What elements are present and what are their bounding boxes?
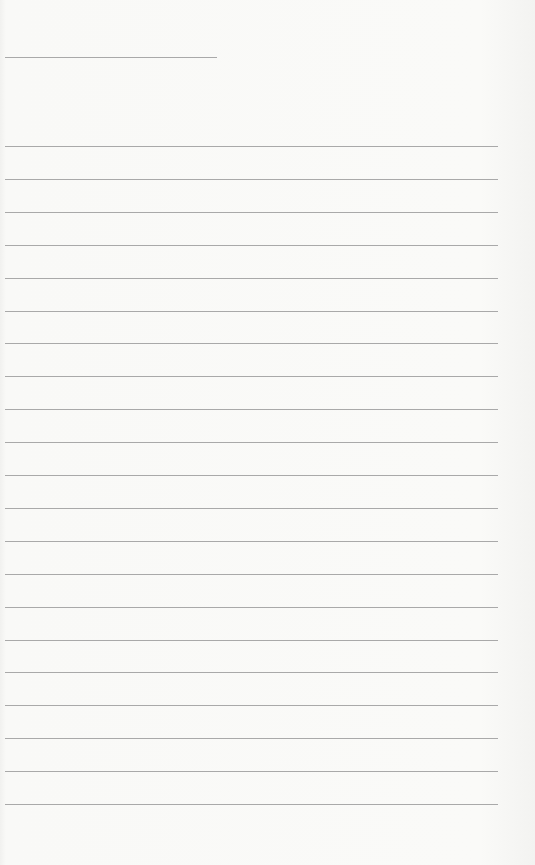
writing-line xyxy=(5,245,498,246)
writing-line xyxy=(5,541,498,542)
lined-paper-page xyxy=(0,0,535,865)
writing-line xyxy=(5,376,498,377)
writing-line xyxy=(5,409,498,410)
writing-line xyxy=(5,146,498,147)
writing-line xyxy=(5,771,498,772)
writing-line xyxy=(5,508,498,509)
writing-line xyxy=(5,212,498,213)
writing-line xyxy=(5,442,498,443)
writing-line xyxy=(5,574,498,575)
title-line xyxy=(5,57,217,58)
writing-line xyxy=(5,343,498,344)
writing-line xyxy=(5,607,498,608)
writing-line xyxy=(5,705,498,706)
writing-line xyxy=(5,311,498,312)
writing-line xyxy=(5,278,498,279)
writing-line xyxy=(5,738,498,739)
writing-line xyxy=(5,475,498,476)
writing-line xyxy=(5,672,498,673)
writing-line xyxy=(5,640,498,641)
writing-line xyxy=(5,804,498,805)
writing-line xyxy=(5,179,498,180)
